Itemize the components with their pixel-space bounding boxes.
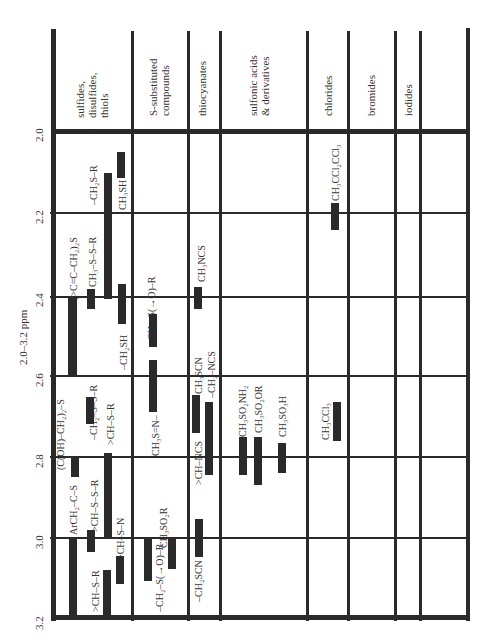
label-ch3so2or: CH₃SO₂OR [253,385,264,433]
bar-arch2cs [69,538,77,616]
column-divider-7 [419,31,422,621]
label-ch3so3h: CH₃SO₃H [277,396,288,437]
column-divider-5 [347,31,350,621]
label-ch3ncs: CH₃NCS [196,245,207,282]
bar-ch2ssr [86,397,94,424]
label-chssr: >CH–S–S–R [89,480,100,532]
bar-ch3sor [149,314,157,347]
bar-chsr [104,453,112,538]
header-s-substituted: S-substituted compounds [147,59,171,116]
bar-ch2sor [144,538,152,581]
header-sulfides: sulfides, disulfides, thiols [74,72,110,118]
axis-tick-3.0: 3.0 [34,535,45,549]
header-chlorides: chlorides [322,76,334,116]
header-iodides: iodides [402,84,414,116]
label-ch2sr: –CH₂S–R [88,165,99,205]
bar-ch3ccl2ccl3 [331,203,339,230]
label-chsn: >CH–S–N [115,518,126,560]
bar-ch3ncs [194,287,202,309]
gridline-2.6 [50,375,467,377]
column-divider-1 [131,31,134,621]
label-ch2sor: –CH₂–S(→O)–R [154,544,165,613]
bar-ch2scn [195,519,203,557]
axis-tick-3.2: 3.2 [34,616,45,630]
bar-ch3scn [192,395,200,433]
gridline-3.0 [50,537,467,539]
label-ch3ssr: CH₃–S–S–R [87,237,98,287]
gridline-2.4 [50,296,467,298]
bar-ch3ssr [87,289,95,309]
label-chsr2: >CH–S–R [90,570,101,612]
gridline-2.0 [53,129,467,134]
bar-ch3so3h [278,443,286,473]
label-cohch2s: (C(OH)–CH₂)₂–S [55,399,66,470]
bar-ccch2s [68,297,77,375]
column-divider-right-border [466,28,470,621]
gridline-3.2-bottom-border [51,615,470,620]
label-ch3ccl2ccl3: CH₃CCl₂CCl₃ [330,144,341,201]
bar-ch3so2or [254,437,262,485]
label-ch2scn: –CH₂SCN [193,560,204,602]
bar-chssr [87,530,95,552]
label-ccch2s: (>C=C–CH₂)₂S [68,237,79,300]
label-ch3scn: CH₃SCN [193,357,204,394]
axis-tick-2.8: 2.8 [34,454,45,468]
column-divider-3 [219,31,222,621]
gridline-2.2 [50,212,467,214]
column-divider-2 [187,31,190,621]
label-ch3sh: CH₃SH [117,180,128,210]
bar-ch3sh [117,152,125,178]
bar-chsr2 [103,570,111,616]
label-chncs: >CH–NCS [193,441,204,485]
axis-tick-2.0: 2.0 [34,128,45,142]
axis-title: 2.0–3.2 ppm [18,310,29,365]
bar-ch2ncs [205,402,213,475]
label-ch2sh: –CH₂SH [118,335,129,370]
bar-cohch2s [71,456,79,477]
header-bromides: bromides [365,75,377,116]
label-ch3so2nh2: CH₃SO₂NH₂ [237,385,248,437]
axis-tick-2.6: 2.6 [34,373,45,387]
label-ch3ccl3: CH₃CCl₃ [320,403,331,440]
bar-ch3so2r [168,537,176,569]
bar-ch2sr [104,173,112,299]
label-arch2cs: ArCH₂–C–S [68,485,79,535]
header-sulfonic-acids: sulfonic acids & derivatives [247,55,271,116]
bar-ch3sn [149,360,157,412]
bar-chsn [116,556,124,584]
column-divider-4 [306,31,309,621]
column-divider-6 [394,31,397,621]
label-chsr: >CH–S–R [105,403,116,445]
bar-ch2sh [118,284,126,324]
header-thiocyanates: thiocyanates [196,61,208,116]
bar-ch3ccl3 [333,402,341,441]
bar-ch3so2nh2 [239,437,247,475]
axis-tick-2.2: 2.2 [34,210,45,224]
column-divider-left-border [51,29,56,621]
axis-tick-2.4: 2.4 [34,293,45,307]
label-ch3sn: CH₃S=N– [150,415,161,456]
label-ch2ncs: –CH₂–NCS [206,351,217,398]
